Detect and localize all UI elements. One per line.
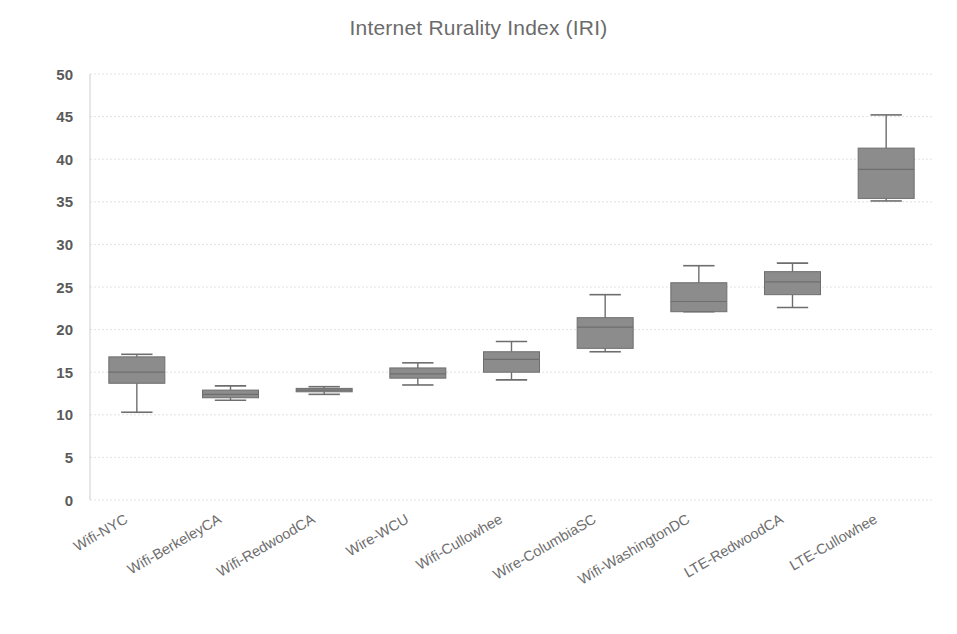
y-tick-label: 30 xyxy=(56,236,73,253)
y-tick-label: 50 xyxy=(56,66,73,83)
x-tick-label: Wifi-Cullowhee xyxy=(413,511,505,573)
x-tick-label: LTE-RedwoodCA xyxy=(681,511,786,581)
box-plot-item xyxy=(577,295,633,352)
box-iqr-rect xyxy=(577,318,633,349)
y-tick-label: 20 xyxy=(56,321,73,338)
box-plot-item xyxy=(203,386,259,400)
box-plot-item xyxy=(765,263,821,307)
y-tick-label: 35 xyxy=(56,193,73,210)
y-tick-label: 25 xyxy=(56,279,73,296)
box-plot-item xyxy=(296,387,352,395)
x-tick-label: Wifi-RedwoodCA xyxy=(214,511,318,580)
x-tick-label: Wire-WCU xyxy=(343,511,411,559)
y-tick-label: 40 xyxy=(56,151,73,168)
box-iqr-rect xyxy=(390,368,446,378)
y-tick-label: 10 xyxy=(56,406,73,423)
box-plot-item xyxy=(858,115,914,201)
box-plot-item xyxy=(390,363,446,385)
x-tick-label: Wifi-NYC xyxy=(71,511,131,555)
box-iqr-rect xyxy=(858,148,914,198)
y-tick-label: 45 xyxy=(56,108,73,125)
chart-container: Internet Rurality Index (IRI) 0510152025… xyxy=(0,0,957,634)
box-iqr-rect xyxy=(109,357,165,383)
x-tick-label: Wifi-BerkeleyCA xyxy=(125,511,225,578)
x-axis-tick-labels: Wifi-NYCWifi-BerkeleyCAWifi-RedwoodCAWir… xyxy=(71,511,880,588)
y-axis-tick-labels: 05101520253035404550 xyxy=(56,66,73,509)
box-iqr-rect xyxy=(765,272,821,295)
box-plot-item xyxy=(484,342,540,380)
box-plot-item xyxy=(109,354,165,412)
x-tick-label: LTE-Cullowhee xyxy=(787,511,880,574)
y-tick-label: 5 xyxy=(65,449,73,466)
box-iqr-rect xyxy=(484,352,540,372)
y-tick-label: 15 xyxy=(56,364,73,381)
y-tick-label: 0 xyxy=(65,492,73,509)
box-plot-item xyxy=(671,266,727,312)
box-plot-svg: 05101520253035404550 Wifi-NYCWifi-Berkel… xyxy=(0,0,957,634)
box-iqr-rect xyxy=(671,283,727,312)
